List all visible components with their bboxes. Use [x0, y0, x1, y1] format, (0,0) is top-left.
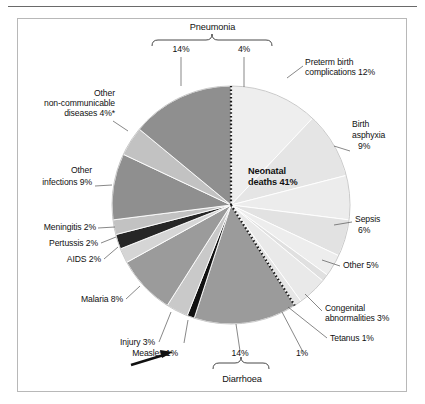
neonatal-deaths-label-line1: Neonatal [248, 166, 286, 177]
diarrhoea-neonatal-value: 1% [288, 348, 316, 358]
preterm-birth-label-line1: Preterm birth [305, 57, 353, 67]
pertussis-label: Pertussis 2% [8, 238, 98, 248]
birth-asphyxia-label-line3: 9% [358, 141, 370, 151]
diarrhoea-group-label: Diarrhoea [207, 374, 277, 385]
congenital-label-line2: abnormalities 3% [325, 313, 389, 323]
neonatal-deaths-label-line2: deaths 41% [248, 177, 298, 188]
other-infections-label-line1: Other [10, 165, 92, 175]
other-ncd-label-line1: Other [10, 88, 115, 98]
birth-asphyxia-label-line2: asphyxia [352, 130, 385, 140]
other-ncd-label-line3: diseases 4%* [10, 108, 115, 118]
pie-slices [112, 86, 350, 324]
tetanus-label: Tetanus 1% [330, 333, 374, 343]
birth-asphyxia-label-line1: Birth [352, 119, 369, 129]
malaria-label: Malaria 8% [8, 294, 123, 304]
pneumonia-postneonatal-value: 14% [162, 44, 200, 54]
pie-chart: Pneumonia 14% 4% Diarrhoea 14% 1% Neonat… [0, 0, 425, 404]
aids-label: AIDS 2% [8, 254, 101, 264]
diarrhoea-postneonatal-value: 14% [222, 348, 258, 358]
meningitis-label: Meningitis 2% [8, 222, 96, 232]
other-neonatal-label: Other 5% [343, 260, 379, 270]
pneumonia-group-label: Pneumonia [170, 22, 255, 33]
congenital-label-line1: Congenital [325, 303, 365, 313]
sepsis-label-line1: Sepsis [355, 214, 380, 224]
injury-label: Injury 3% [40, 337, 155, 347]
preterm-birth-label-line2: complications 12% [305, 67, 375, 77]
other-ncd-label-line2: non-communicable [10, 98, 115, 108]
measles-label: Measles 1% [40, 348, 178, 358]
pneumonia-neonatal-value: 4% [227, 44, 261, 54]
sepsis-label-line2: 6% [358, 225, 370, 235]
other-infections-label-line2: infections 9% [10, 177, 92, 187]
